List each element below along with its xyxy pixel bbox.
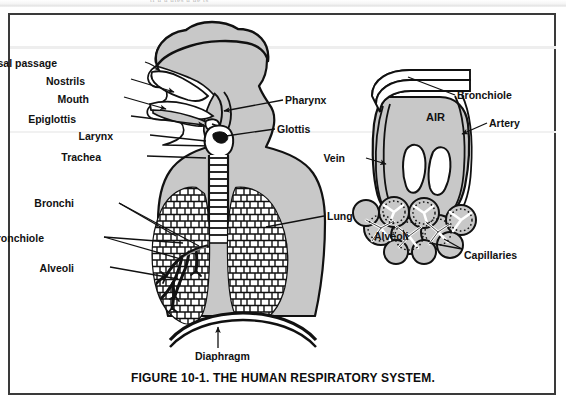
label-capillaries: Capillaries xyxy=(464,250,517,261)
label-bronchi: Bronchi xyxy=(34,198,74,209)
label-pharynx: Pharynx xyxy=(285,95,326,106)
label-trachea: Trachea xyxy=(61,152,101,163)
label-nasal-passage: Nasal passage xyxy=(0,58,57,69)
label-mouth: Mouth xyxy=(58,94,90,105)
label-larynx: Larynx xyxy=(79,131,113,142)
label-vein: Vein xyxy=(323,153,345,164)
label-epiglottis: Epiglottis xyxy=(28,114,76,125)
label-alveoli-detail: Alveoli xyxy=(374,231,408,242)
label-glottis: Glottis xyxy=(277,124,310,135)
diaphragm xyxy=(166,313,320,347)
label-nostrils: Nostrils xyxy=(46,76,85,87)
label-lung: Lung xyxy=(327,211,353,222)
label-air: AIR xyxy=(426,111,445,123)
figure-caption: FIGURE 10-1. THE HUMAN RESPIRATORY SYSTE… xyxy=(0,371,566,385)
label-bronchiole: Bronchiole xyxy=(0,233,44,244)
respiratory-system-illustration xyxy=(0,0,566,403)
figure-page: ti u u utes u ue ts xyxy=(0,0,566,403)
label-bronchiole-detail: Bronchiole xyxy=(457,90,512,101)
alveoli-cluster xyxy=(353,197,476,264)
label-diaphragm: Diaphragm xyxy=(195,351,250,362)
label-artery: Artery xyxy=(489,118,520,129)
label-alveoli: Alveoli xyxy=(40,263,74,274)
